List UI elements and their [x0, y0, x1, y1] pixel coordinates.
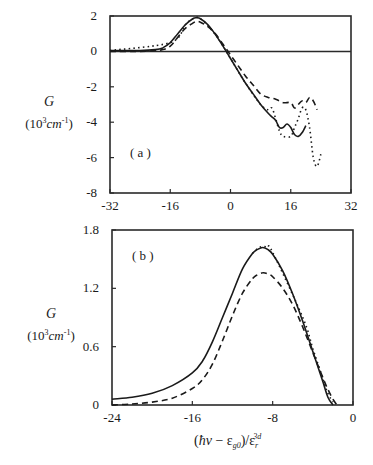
y-tick-label: -8	[86, 185, 97, 200]
series-dashed-line	[110, 21, 317, 110]
y-axis-symbol: G	[14, 92, 84, 111]
y-tick-label: -4	[86, 114, 97, 129]
y-axis-unit: (103cm-1)	[14, 111, 84, 133]
x-tick-label: 0	[350, 410, 357, 425]
y-tick-label: 0	[93, 397, 100, 412]
panel-a-label: ( a )	[130, 145, 151, 161]
x-tick-label: -16	[162, 198, 180, 213]
figure-canvas: 20-2-4-6-8-32-1601632 1.81.20.60-24-16-8…	[0, 0, 373, 465]
x-tick-label: -32	[101, 198, 118, 213]
panel-a-y-axis-label: G (103cm-1)	[14, 92, 84, 133]
series-dotted-line	[253, 246, 333, 402]
series-solid-line	[112, 248, 333, 406]
y-tick-label: 1.8	[83, 222, 99, 237]
x-tick-label: -8	[267, 410, 278, 425]
y-tick-label: 1.2	[83, 280, 99, 295]
x-tick-label: 32	[345, 198, 358, 213]
y-axis-symbol: G	[16, 304, 86, 323]
y-tick-label: -6	[86, 150, 97, 165]
panel-b-y-axis-label: G (103cm-1)	[16, 304, 86, 345]
x-tick-label: 0	[227, 198, 234, 213]
panel-b-label: ( b )	[132, 248, 154, 264]
panel-b-plot: 1.81.20.60-24-16-80	[83, 222, 357, 425]
x-tick-label: -16	[184, 410, 202, 425]
x-tick-label: -24	[103, 410, 121, 425]
y-axis-unit: (103cm-1)	[16, 323, 86, 345]
series-dashed-line	[112, 273, 337, 405]
y-tick-label: 2	[91, 8, 98, 23]
series-solid-line	[110, 18, 306, 137]
y-tick-label: 0	[91, 43, 98, 58]
x-axis-label: (ħν − εg0)/εr3d	[194, 432, 261, 450]
x-tick-label: 16	[284, 198, 298, 213]
y-tick-label: -2	[86, 79, 97, 94]
panel-a-plot: 20-2-4-6-8-32-1601632	[86, 8, 357, 213]
